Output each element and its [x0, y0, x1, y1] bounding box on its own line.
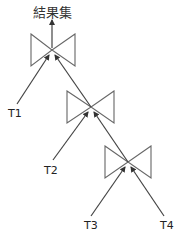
edge-bottom-middle [94, 112, 128, 162]
table-label-t1: T1 [8, 108, 22, 119]
edge-t1-top [17, 55, 49, 104]
result-set-label: 結果集 [33, 6, 72, 19]
table-label-t4: T4 [160, 220, 174, 231]
table-label-t2: T2 [44, 165, 58, 176]
edge-middle-top [55, 55, 91, 107]
join-tree-diagram [0, 0, 184, 236]
join-operator-top-icon [31, 34, 75, 66]
table-label-t3: T3 [84, 220, 98, 231]
edge-t2-middle [53, 112, 88, 160]
edge-t3-bottom [91, 167, 125, 216]
edge-t4-bottom [131, 167, 164, 216]
